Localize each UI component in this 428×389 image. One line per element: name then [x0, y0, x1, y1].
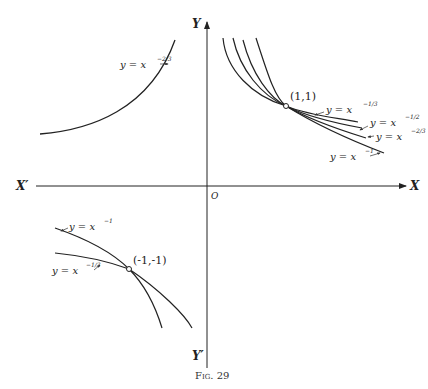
svg-text:y = x: y = x — [375, 131, 402, 142]
svg-text:−2/3: −2/3 — [411, 127, 426, 134]
svg-text:y = x: y = x — [369, 117, 396, 128]
label-y-pos: Y — [192, 17, 202, 31]
svg-text:y = x: y = x — [68, 221, 95, 232]
label-origin: O — [211, 191, 219, 201]
svg-text:y = x: y = x — [325, 104, 352, 115]
label-q3-curve-1-3: y = x −1/3 — [51, 261, 101, 276]
svg-text:−2/3: −2/3 — [157, 55, 172, 62]
svg-text:y = x: y = x — [51, 265, 78, 276]
label-q1-curve-1: y = x −1 — [329, 147, 380, 162]
point-1-1 — [284, 104, 289, 109]
label-q1-curve-1-3: y = x −1/3 — [315, 100, 378, 115]
label-point-1-1: (1,1) — [290, 90, 316, 103]
svg-text:y = x: y = x — [329, 151, 356, 162]
svg-text:−1: −1 — [104, 217, 113, 224]
svg-text:−1/3: −1/3 — [86, 261, 101, 268]
curve-q3-x-neg-1 — [55, 228, 192, 328]
curve-q1-x-neg-2-3 — [233, 38, 366, 138]
label-x-neg: X′ — [15, 179, 29, 193]
label-q1-curve-2-3: y = x −2/3 — [368, 127, 426, 142]
svg-text:y = x: y = x — [119, 59, 146, 70]
label-x-pos: X — [409, 179, 420, 193]
point-neg1-neg1 — [127, 267, 132, 272]
svg-text:−1: −1 — [365, 147, 374, 154]
label-y-neg: Y′ — [192, 349, 205, 363]
label-q2-curve: y = x −2/3 — [119, 55, 172, 70]
svg-text:−1/3: −1/3 — [363, 100, 378, 107]
curve-q2-x-neg-2-3 — [40, 40, 175, 134]
label-q3-curve-1: y = x −1 — [61, 217, 113, 232]
figure-caption: Fig. 29 — [195, 370, 229, 381]
label-point-neg1-neg1: (-1,-1) — [133, 254, 167, 267]
power-function-diagram: Y Y′ X X′ O (1,1) (-1,-1) y = x −2/3 y =… — [0, 0, 428, 389]
svg-text:−1/2: −1/2 — [405, 113, 420, 120]
